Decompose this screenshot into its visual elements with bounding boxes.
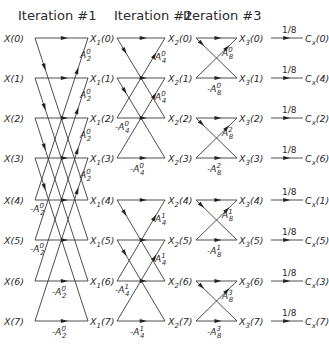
input-label: X(2) bbox=[3, 113, 24, 124]
arrow-icon bbox=[214, 319, 221, 323]
coeff-stage2-lower: -A14 bbox=[115, 283, 129, 298]
scale-label: 1/8 bbox=[282, 227, 297, 237]
arrow-icon bbox=[61, 116, 68, 120]
stage1-node-label: X1(6) bbox=[89, 276, 114, 290]
stage1-node-label: X1(0) bbox=[89, 33, 114, 47]
coeff-stage2-upper: A04 bbox=[154, 50, 166, 65]
input-label: X(0) bbox=[3, 33, 24, 44]
iteration-title-3: Iteration #3 bbox=[183, 8, 261, 23]
stage2-node-label: X2(1) bbox=[167, 73, 192, 87]
arrow-icon bbox=[283, 319, 290, 323]
arrow-icon bbox=[42, 183, 48, 191]
scale-label: 1/8 bbox=[282, 268, 297, 278]
stage1-node-label: X1(3) bbox=[89, 153, 114, 167]
arrow-icon bbox=[140, 319, 147, 323]
stage2-node-label: X2(4) bbox=[167, 195, 192, 209]
arrow-icon bbox=[214, 279, 221, 283]
arrow-icon bbox=[61, 279, 68, 283]
arrow-icon bbox=[74, 147, 80, 155]
coeff-stage1-lower: -A02 bbox=[52, 325, 67, 340]
stage3-node-label: X3(6) bbox=[238, 276, 263, 290]
coeff-stage2-upper: A14 bbox=[154, 212, 166, 227]
stage1-node-label: X1(4) bbox=[89, 195, 114, 209]
arrow-icon bbox=[121, 249, 128, 257]
stage2-node-label: X2(7) bbox=[167, 316, 192, 330]
iteration-title-1: Iteration #1 bbox=[18, 8, 96, 23]
arrow-icon bbox=[42, 143, 48, 151]
arrow-icon bbox=[214, 198, 221, 202]
arrow-icon bbox=[61, 156, 68, 160]
stage3-node-label: X3(0) bbox=[238, 33, 263, 47]
arrow-icon bbox=[283, 238, 290, 242]
arrow-icon bbox=[121, 87, 128, 95]
stage2-node-label: X2(0) bbox=[167, 33, 192, 47]
coeff-stage3-lower: -A38 bbox=[207, 325, 222, 340]
arrow-icon bbox=[140, 238, 147, 242]
scale-label: 1/8 bbox=[282, 187, 297, 197]
scale-label: 1/8 bbox=[282, 65, 297, 75]
node-labels: 1/81/81/81/81/81/81/81/8X(0)X1(0)X2(0)X3… bbox=[3, 25, 329, 330]
scale-label: 1/8 bbox=[282, 308, 297, 318]
stage3-node-label: X3(4) bbox=[238, 195, 263, 209]
arrow-icon bbox=[140, 156, 147, 160]
arrow-icon bbox=[61, 76, 68, 80]
input-label: X(3) bbox=[3, 153, 24, 164]
arrow-icon bbox=[283, 116, 290, 120]
coeff-stage3-lower: -A28 bbox=[207, 162, 222, 177]
arrow-icon bbox=[283, 279, 290, 283]
arrow-icon bbox=[214, 156, 221, 160]
arrow-icon bbox=[61, 198, 68, 202]
coeff-stage1-lower: -A02 bbox=[52, 285, 67, 300]
arrow-icon bbox=[214, 238, 221, 242]
output-label: Cx(4) bbox=[305, 73, 329, 87]
coeff-stage2-lower: -A04 bbox=[115, 120, 129, 135]
arrow-icon bbox=[214, 36, 221, 40]
arrow-icon bbox=[61, 319, 68, 323]
stage1-node-label: X1(2) bbox=[89, 113, 114, 127]
coeff-stage3-lower: -A08 bbox=[207, 82, 222, 97]
arrow-icon bbox=[283, 198, 290, 202]
scale-label: 1/8 bbox=[282, 105, 297, 115]
coeff-stage3-upper: A18 bbox=[221, 208, 234, 223]
iteration-titles: Iteration #1Iteration #2Iteration #3 bbox=[18, 8, 261, 23]
arrow-icon bbox=[140, 76, 147, 80]
input-label: X(4) bbox=[3, 195, 24, 206]
arrow-icon bbox=[140, 116, 147, 120]
input-label: X(6) bbox=[3, 276, 24, 287]
coeff-stage1-lower: -A02 bbox=[30, 242, 45, 257]
arrow-icon bbox=[140, 279, 147, 283]
stage3-node-label: X3(7) bbox=[238, 316, 263, 330]
output-label: Cx(7) bbox=[305, 316, 329, 330]
scale-label: 1/8 bbox=[282, 25, 297, 35]
arrow-icon bbox=[74, 187, 80, 195]
coeff-stage3-upper: A28 bbox=[221, 126, 234, 141]
coeff-stage3-upper: A08 bbox=[221, 46, 234, 61]
stage1-node-label: X1(5) bbox=[89, 235, 114, 249]
stage2-node-label: X2(5) bbox=[167, 235, 192, 249]
scale-label: 1/8 bbox=[282, 145, 297, 155]
input-label: X(5) bbox=[3, 235, 24, 246]
output-label: Cx(3) bbox=[305, 276, 329, 290]
output-label: Cx(5) bbox=[305, 235, 329, 249]
stage1-node-label: X1(1) bbox=[89, 73, 114, 87]
coeff-stage3-lower: -A18 bbox=[207, 244, 222, 259]
stage3-node-label: X3(5) bbox=[238, 235, 263, 249]
output-label: Cx(6) bbox=[305, 153, 329, 167]
input-label: X(1) bbox=[3, 73, 24, 84]
coeff-stage2-lower: -A04 bbox=[130, 162, 144, 177]
arrow-icon bbox=[121, 209, 128, 217]
coeff-stage2-lower: -A14 bbox=[130, 325, 144, 340]
input-label: X(7) bbox=[3, 316, 24, 327]
arrow-icon bbox=[214, 116, 221, 120]
stage2-node-label: X2(3) bbox=[167, 153, 192, 167]
output-label: Cx(2) bbox=[305, 113, 329, 127]
butterfly-flow-diagram: Iteration #1Iteration #2Iteration #3 1/8… bbox=[0, 0, 329, 346]
arrow-icon bbox=[214, 76, 221, 80]
arrow-icon bbox=[42, 103, 48, 111]
arrow-icon bbox=[283, 156, 290, 160]
stage1-node-label: X1(7) bbox=[89, 316, 114, 330]
iteration-title-2: Iteration #2 bbox=[114, 8, 192, 23]
coeff-stage1-lower: -A02 bbox=[30, 202, 45, 217]
output-label: Cx(0) bbox=[305, 33, 329, 47]
output-label: Cx(1) bbox=[305, 195, 329, 209]
